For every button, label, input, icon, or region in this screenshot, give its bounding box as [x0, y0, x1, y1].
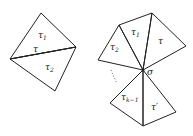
label-tau-fan: τ — [158, 36, 164, 46]
triangle-tau2 — [10, 47, 76, 91]
diagram-canvas: τ1 τ τ2 σ τ1 τ2 τ τk−1 τ′ — [0, 0, 193, 136]
shared-edge-tau — [10, 47, 76, 59]
label-tau-k-minus-1: τk−1 — [121, 92, 138, 103]
label-tau1: τ1 — [38, 30, 47, 41]
label-sigma: σ — [147, 67, 154, 77]
label-tau2-fan: τ2 — [110, 42, 119, 53]
triangle-tau-prime — [143, 70, 176, 126]
triangle-tau — [143, 13, 186, 70]
right-figure: σ τ1 τ2 τ τk−1 τ′ — [98, 13, 186, 126]
left-figure: τ1 τ τ2 — [10, 13, 76, 91]
label-tau-edge: τ — [33, 44, 39, 54]
vertex-sigma — [142, 69, 145, 72]
triangle-tau1-fan — [119, 13, 152, 70]
label-tau1-fan: τ1 — [131, 27, 140, 38]
ellipsis-dots — [111, 70, 117, 83]
label-tau2: τ2 — [45, 62, 54, 73]
label-tau-prime: τ′ — [151, 102, 158, 112]
